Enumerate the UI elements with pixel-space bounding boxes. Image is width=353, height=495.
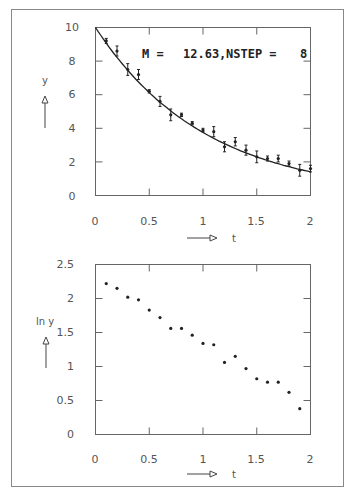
x-axis-label: t xyxy=(232,469,236,480)
x-axis-label: t xyxy=(232,233,236,244)
bottom-plot-ticks xyxy=(96,265,311,435)
y-tick-label: 0 xyxy=(67,428,74,441)
bottom-plot-y-tick-labels: 2.5 2 1.5 1 0.5 0 xyxy=(57,258,75,441)
figure: 10 8 6 4 2 0 0 0.5 1 1.5 2 y xyxy=(0,0,353,495)
x-tick-label: 0.5 xyxy=(140,215,158,228)
right-arrow-icon xyxy=(187,471,217,477)
x-tick-label: 0 xyxy=(92,215,99,228)
x-tick-label: 0.5 xyxy=(140,453,158,466)
bottom-plot: 2.5 2 1.5 1 0.5 0 0 0.5 1 1.5 2 ln y xyxy=(36,258,314,480)
x-tick-label: 1 xyxy=(200,453,207,466)
up-arrow-icon xyxy=(42,96,48,128)
x-tick-label: 2 xyxy=(307,453,314,466)
x-tick-label: 2 xyxy=(307,215,314,228)
bottom-plot-data-points xyxy=(105,282,302,410)
x-tick-label: 1.5 xyxy=(247,453,265,466)
y-tick-label: 10 xyxy=(65,21,79,34)
bottom-plot-x-tick-labels: 0 0.5 1 1.5 2 xyxy=(92,453,314,466)
x-tick-label: 0 xyxy=(92,453,99,466)
y-axis-label: ln y xyxy=(36,316,54,327)
svg-text:M =: M = xyxy=(142,47,164,61)
y-tick-label: 2 xyxy=(69,156,76,169)
y-tick-label: 2 xyxy=(67,292,74,305)
y-tick-label: 1.5 xyxy=(57,326,75,339)
y-tick-label: 0.5 xyxy=(57,394,75,407)
y-tick-label: 1 xyxy=(67,360,74,373)
top-plot: 10 8 6 4 2 0 0 0.5 1 1.5 2 y xyxy=(42,21,314,244)
y-tick-label: 0 xyxy=(69,190,76,203)
up-arrow-icon xyxy=(43,337,49,368)
svg-text:8: 8 xyxy=(300,47,307,61)
top-plot-x-tick-labels: 0 0.5 1 1.5 2 xyxy=(92,215,314,228)
fit-annotation: M = 12.63, NSTEP = 8 xyxy=(142,47,307,61)
y-tick-label: 4 xyxy=(69,122,76,135)
x-tick-label: 1 xyxy=(200,215,207,228)
right-arrow-icon xyxy=(187,235,217,241)
y-tick-label: 2.5 xyxy=(57,258,75,271)
y-tick-label: 6 xyxy=(69,88,76,101)
svg-text:NSTEP =: NSTEP = xyxy=(226,47,277,61)
top-plot-y-tick-labels: 10 8 6 4 2 0 xyxy=(65,21,79,203)
bottom-plot-frame xyxy=(96,265,311,435)
svg-text:12.63,: 12.63, xyxy=(183,47,226,61)
y-axis-label: y xyxy=(42,75,48,86)
y-tick-label: 8 xyxy=(69,55,76,68)
figure-border xyxy=(12,10,344,487)
x-tick-label: 1.5 xyxy=(247,215,265,228)
